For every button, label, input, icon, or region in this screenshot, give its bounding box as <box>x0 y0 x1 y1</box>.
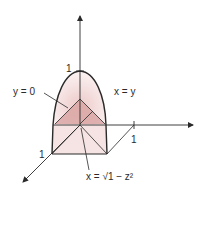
depth-tick-label: 1 <box>39 150 45 160</box>
horizontal-tick-label: 1 <box>131 135 137 145</box>
label-plane-x-equals-y: x = y <box>114 87 135 97</box>
base-edge-right <box>107 125 134 154</box>
label-plane-y0: y = 0 <box>13 87 35 97</box>
vertical-tick-label: 1 <box>66 64 72 74</box>
dome-front-face <box>52 125 107 154</box>
label-surface: x = √1 − z² <box>86 172 133 182</box>
